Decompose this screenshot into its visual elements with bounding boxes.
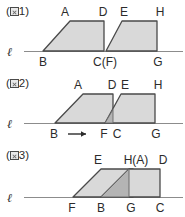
vertex-label-e-panel-1: E: [120, 5, 128, 19]
panel-1-drawing: ℓ A D E H B C(F) G: [0, 0, 185, 72]
vertex-label-g-panel-3: G: [126, 201, 135, 215]
figure-panel-3: (3) ℓ E H(A) D F B G C: [0, 144, 185, 216]
vertex-label-h-panel-2: H: [154, 78, 163, 92]
trapezoid-ABCD-panel-2: [55, 94, 113, 123]
vertex-label-g-panel-2: G: [151, 127, 160, 141]
line-l-label-panel-1: ℓ: [7, 45, 12, 59]
vertex-label-b-panel-3: B: [97, 201, 105, 215]
vertex-label-b-panel-1: B: [39, 55, 47, 69]
line-l-label-panel-2: ℓ: [7, 117, 12, 131]
vertex-label-c-panel-3: C: [156, 201, 165, 215]
vertex-label-f-panel-2: F: [100, 127, 107, 141]
vertex-label-d-panel-3: D: [159, 153, 168, 167]
vertex-label-b-panel-2: B: [50, 127, 58, 141]
figure-sheet: (1) ℓ A D E H B C(F) G (2): [0, 0, 185, 217]
vertex-label-d-panel-2: D: [108, 78, 117, 92]
vertex-label-cf-panel-1: C(F): [93, 55, 117, 69]
vertex-label-g-panel-1: G: [153, 55, 162, 69]
panel-3-drawing: ℓ E H(A) D F B G C: [0, 144, 185, 216]
vertex-label-f-panel-3: F: [68, 201, 75, 215]
trapezoid-EFGH-panel-1: [106, 21, 157, 51]
line-l-label-panel-3: ℓ: [7, 191, 12, 205]
figure-panel-2: (2) ℓ A D E H B F C G: [0, 72, 185, 144]
motion-arrow-icon-panel-2: [68, 131, 86, 136]
vertex-label-a-panel-1: A: [61, 5, 69, 19]
vertex-label-c-panel-2: C: [113, 127, 122, 141]
figure-panel-1: (1) ℓ A D E H B C(F) G: [0, 0, 185, 72]
vertex-label-h-panel-1: H: [156, 5, 165, 19]
vertex-label-e-panel-3: E: [94, 153, 102, 167]
vertex-label-ha-panel-3: H(A): [124, 153, 149, 167]
panel-2-drawing: ℓ A D E H B F C G: [0, 72, 185, 144]
vertex-label-e-panel-2: E: [121, 78, 129, 92]
vertex-label-d-panel-1: D: [99, 5, 108, 19]
vertex-label-a-panel-2: A: [74, 78, 82, 92]
trapezoid-ABCD-panel-1: [43, 21, 104, 51]
